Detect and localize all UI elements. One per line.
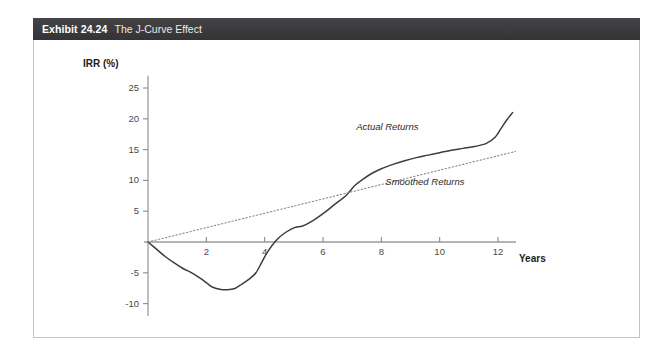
series-line-actual-returns xyxy=(148,113,513,290)
j-curve-chart xyxy=(0,0,659,358)
series-line-smoothed-returns xyxy=(148,151,516,242)
exhibit-figure: Exhibit 24.24 The J-Curve Effect IRR (%)… xyxy=(0,0,659,358)
